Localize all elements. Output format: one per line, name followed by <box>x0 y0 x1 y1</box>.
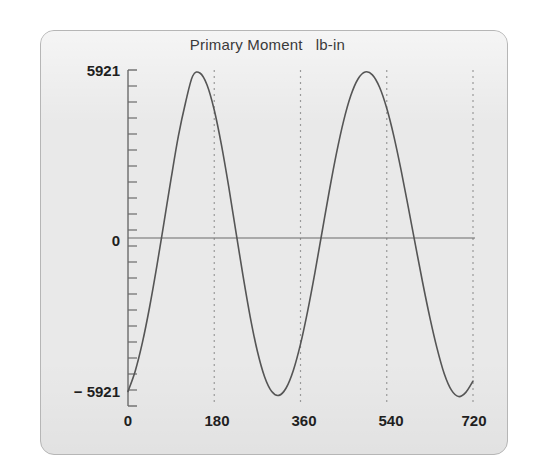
chart-figure: Primary Moment lb-in 5921 0 − 5921 0 180… <box>0 0 535 475</box>
plot-area <box>0 0 535 475</box>
